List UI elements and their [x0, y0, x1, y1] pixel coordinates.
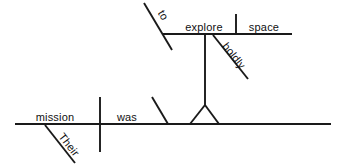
diagram-word-adverb-boldly: boldly	[220, 40, 248, 71]
diagram-word-group: missionTheirwastoexplorespaceboldly	[36, 8, 280, 159]
diagram-word-subject: mission	[36, 111, 75, 123]
diagram-word-infinitive-verb: explore	[185, 21, 222, 33]
sentence-diagram-canvas: missionTheirwastoexplorespaceboldly	[0, 0, 346, 165]
diagram-line-complement-slant	[152, 97, 168, 124]
diagram-line-stand-right-leg	[205, 105, 219, 124]
diagram-word-infinitive-to: to	[156, 8, 171, 22]
diagram-word-verb: was	[116, 111, 137, 123]
diagram-word-object: space	[249, 21, 279, 33]
diagram-line-stand-left-leg	[190, 105, 205, 124]
sentence-diagram-svg: missionTheirwastoexplorespaceboldly	[0, 0, 346, 165]
